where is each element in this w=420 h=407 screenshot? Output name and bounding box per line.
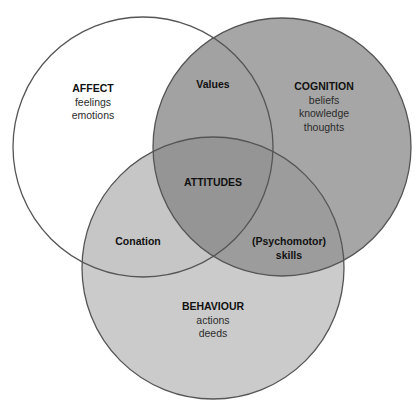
behaviour-label: BEHAVIOUR actions deeds	[182, 300, 244, 341]
affect-item: emotions	[72, 109, 115, 123]
cognition-item: knowledge	[294, 107, 354, 121]
conation-label: Conation	[115, 235, 161, 249]
attitudes-label: ATTITUDES	[184, 176, 242, 190]
venn-diagram	[0, 0, 420, 407]
skills-line: (Psychomotor)	[252, 235, 326, 249]
cognition-label: COGNITION beliefs knowledge thoughts	[294, 80, 354, 134]
cognition-title: COGNITION	[294, 80, 354, 94]
behaviour-item: actions	[182, 314, 244, 328]
skills-line: skills	[252, 249, 326, 263]
affect-item: feelings	[72, 96, 115, 110]
cognition-item: beliefs	[294, 94, 354, 108]
affect-title: AFFECT	[72, 82, 115, 96]
values-label: Values	[196, 78, 229, 92]
behaviour-item: deeds	[182, 327, 244, 341]
behaviour-title: BEHAVIOUR	[182, 300, 244, 314]
cognition-item: thoughts	[294, 121, 354, 135]
skills-label: (Psychomotor) skills	[252, 235, 326, 262]
affect-label: AFFECT feelings emotions	[72, 82, 115, 123]
